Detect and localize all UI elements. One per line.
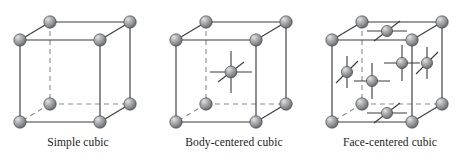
unit-cell-body-centered-cubic: Body-centered cubic bbox=[156, 0, 312, 162]
caption-body-centered-cubic: Body-centered cubic bbox=[156, 136, 312, 148]
crystal-lattice-figure: Simple cubic bbox=[0, 0, 468, 162]
face-centered-cubic-diagram bbox=[312, 0, 468, 140]
caption-face-centered-cubic: Face-centered cubic bbox=[312, 136, 468, 148]
unit-cell-simple-cubic: Simple cubic bbox=[0, 0, 156, 162]
caption-simple-cubic: Simple cubic bbox=[0, 136, 156, 148]
hidden-edges bbox=[20, 22, 130, 122]
visible-edges bbox=[20, 22, 130, 122]
body-center-atom bbox=[225, 66, 237, 78]
body-centered-cubic-diagram bbox=[156, 0, 312, 140]
unit-cell-face-centered-cubic: Face-centered cubic bbox=[312, 0, 468, 162]
face-center-atoms bbox=[341, 25, 432, 118]
simple-cubic-diagram bbox=[0, 0, 156, 140]
